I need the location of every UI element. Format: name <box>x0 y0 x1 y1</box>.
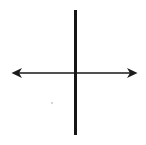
scan-speck-artifact <box>51 102 53 104</box>
figure-canvas <box>0 0 146 145</box>
axes-cross-diagram <box>0 0 146 145</box>
